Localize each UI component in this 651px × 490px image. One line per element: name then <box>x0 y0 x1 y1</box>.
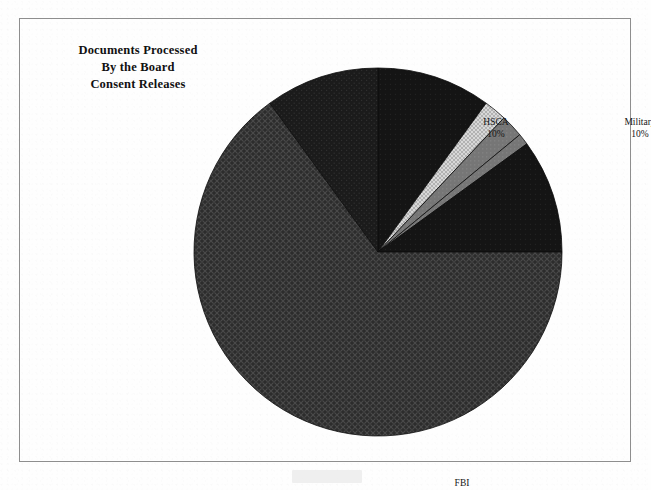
pie-label-military: Military 10% <box>605 117 651 140</box>
scanned-page: Documents Processed By the Board Consent… <box>0 0 651 490</box>
scan-smudge-artifact <box>292 470 362 483</box>
pie-label-hsca-percent: 10% <box>461 129 531 141</box>
pie-label-military-percent: 10% <box>605 129 651 141</box>
pie-chart: HSCA 10% Military 10% Libraries 2% Commi… <box>193 67 563 437</box>
pie-label-fbi-name: FBI <box>436 478 488 490</box>
pie-label-hsca-name: HSCA <box>461 117 531 129</box>
pie-label-military-name: Military <box>605 117 651 129</box>
chart-title-line-1: Documents Processed <box>33 42 243 59</box>
pie-label-hsca: HSCA 10% <box>461 117 531 140</box>
pie-label-fbi: FBI 65% <box>436 478 488 490</box>
